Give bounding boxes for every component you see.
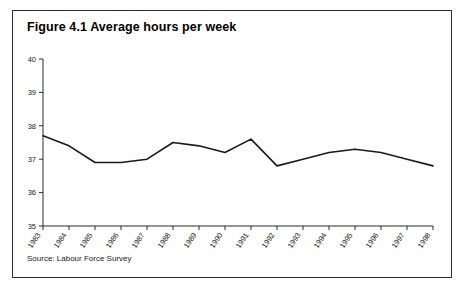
y-tick-label: 35 bbox=[28, 222, 36, 231]
y-axis-tick-labels: 353637383940 bbox=[28, 55, 36, 231]
x-tick-label: 1991 bbox=[234, 231, 251, 250]
y-tick-label: 37 bbox=[28, 155, 36, 164]
x-tick-label: 1993 bbox=[286, 231, 303, 250]
x-tick-label: 1984 bbox=[52, 231, 69, 250]
x-tick-label: 1989 bbox=[182, 231, 199, 250]
chart-plot-area: 353637383940 198319841985198619871988198… bbox=[13, 11, 453, 279]
x-tick-label: 1986 bbox=[104, 231, 121, 250]
y-tick-label: 39 bbox=[28, 88, 36, 97]
x-tick-label: 1987 bbox=[130, 231, 147, 250]
x-tick-label: 1998 bbox=[416, 231, 433, 250]
x-tick-label: 1997 bbox=[390, 231, 407, 250]
source-note: Source: Labour Force Survey bbox=[27, 254, 132, 263]
x-tick-label: 1995 bbox=[338, 231, 355, 250]
x-tick-label: 1983 bbox=[26, 231, 43, 250]
y-tick-label: 38 bbox=[28, 122, 36, 131]
x-tick-label: 1992 bbox=[260, 231, 277, 250]
x-axis-ticks bbox=[43, 226, 433, 230]
y-tick-label: 40 bbox=[28, 55, 36, 64]
y-tick-label: 36 bbox=[28, 188, 36, 197]
data-series-line bbox=[43, 136, 433, 166]
figure-frame: Figure 4.1 Average hours per week 353637… bbox=[12, 10, 452, 278]
x-tick-label: 1996 bbox=[364, 231, 381, 250]
x-tick-label: 1994 bbox=[312, 231, 329, 250]
x-tick-label: 1988 bbox=[156, 231, 173, 250]
x-tick-label: 1990 bbox=[208, 231, 225, 250]
x-axis-tick-labels: 1983198419851986198719881989199019911992… bbox=[26, 231, 433, 250]
line-chart: 353637383940 198319841985198619871988198… bbox=[13, 11, 453, 279]
y-axis-ticks bbox=[39, 59, 43, 226]
x-tick-label: 1985 bbox=[78, 231, 95, 250]
